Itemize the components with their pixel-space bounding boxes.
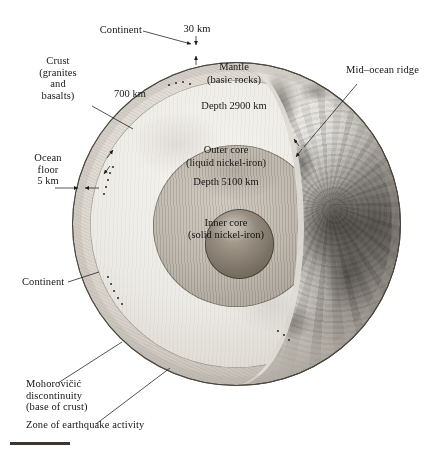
earth-structure-figure: Continent 30 km Crust (granites and basa… [0, 0, 448, 457]
label-continent-bottom: Continent [22, 276, 102, 288]
label-ocean-floor: Ocean floor 5 km [20, 152, 76, 187]
label-mantle-depth: Depth 2900 km [170, 100, 298, 112]
label-30km: 30 km [170, 23, 224, 35]
leader-crust [92, 106, 133, 129]
label-continent-top: Continent [60, 24, 142, 36]
label-mid-ocean-ridge: Mid–ocean ridge [346, 64, 446, 76]
label-outer-core-composition: (liquid nickel-iron) [160, 157, 292, 169]
figure-rule [10, 442, 70, 445]
label-outer-core-depth: Depth 5100 km [164, 176, 288, 188]
arrow-ridge-up [294, 139, 299, 146]
label-mantle-composition: (basic rocks) [176, 74, 292, 86]
leader-mid-ocean-ridge [304, 84, 357, 147]
label-crust: Crust (granites and basalts) [22, 55, 94, 101]
label-700km: 700 km [100, 88, 160, 100]
arrow-ridge-down [296, 149, 302, 157]
label-mantle-name: Mantle [186, 61, 282, 73]
label-inner-core-composition: (solid nickel-iron) [164, 229, 288, 241]
leader-moho [58, 342, 122, 383]
label-moho: Mohorovičić discontinuity (base of crust… [26, 378, 146, 413]
label-outer-core-name: Outer core [178, 144, 274, 156]
label-inner-core-name: Inner core [182, 217, 270, 229]
label-earthquake-zone: Zone of earthquake activity [26, 419, 206, 431]
arrow-subduction-lower [104, 166, 110, 174]
arrow-subduction-upper [107, 150, 113, 158]
